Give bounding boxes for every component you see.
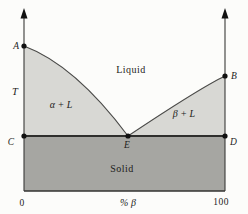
- point-c-label: C: [8, 137, 15, 147]
- point-b-label: B: [231, 71, 237, 81]
- liquid-region-label: Liquid: [116, 64, 146, 75]
- phase-diagram-canvas: A B C D E T 0 100 % β Liquid α + L β + L…: [0, 0, 248, 214]
- solid-region-label: Solid: [110, 163, 134, 174]
- point-e-dot: [125, 133, 130, 138]
- left-axis-arrow-icon: [21, 8, 28, 19]
- point-d-label: D: [229, 137, 237, 147]
- point-d-dot: [222, 133, 227, 138]
- beta-plus-liquid-label: β + L: [172, 108, 196, 119]
- y-axis-label: T: [12, 86, 19, 97]
- point-a-dot: [21, 43, 26, 48]
- point-b-dot: [222, 73, 227, 78]
- alpha-plus-liquid-label: α + L: [50, 99, 73, 110]
- phase-diagram-figure: A B C D E T 0 100 % β Liquid α + L β + L…: [0, 0, 248, 214]
- alpha-plus-liquid-region: [24, 46, 128, 136]
- point-a-label: A: [12, 41, 19, 51]
- x-axis-label: % β: [120, 197, 136, 208]
- right-axis-arrow-icon: [222, 8, 229, 19]
- x-tick-0: 0: [19, 198, 24, 208]
- point-c-dot: [21, 133, 26, 138]
- point-e-label: E: [123, 140, 130, 150]
- x-tick-100: 100: [213, 197, 229, 207]
